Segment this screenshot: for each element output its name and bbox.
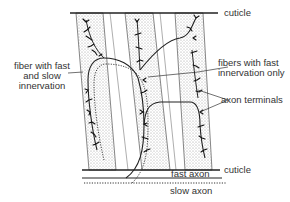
label-fiber-fast-slow-3: innervation [12,81,72,91]
label-axon-terminals: axon terminals [221,95,283,105]
label-fast-axon: fast axon [171,169,210,179]
label-slow-axon: slow axon [170,186,212,196]
label-cuticle-top: cuticle [224,8,251,18]
label-cuticle-bottom: cuticle [224,165,251,175]
muscle-fiber-3 [175,13,212,170]
label-fibers-fast-only-2: innervation only [218,68,285,78]
